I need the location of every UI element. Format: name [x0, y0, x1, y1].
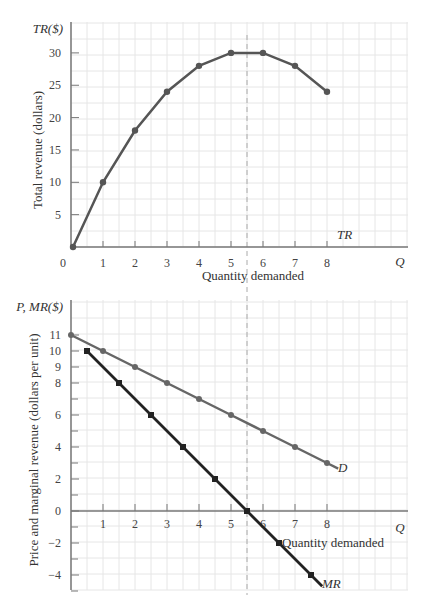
mr-point [244, 508, 250, 514]
tr-point [196, 63, 202, 69]
bottom-x-tick-label: 5 [228, 517, 234, 531]
top-y-tick-label: 10 [49, 175, 61, 189]
demand-point [68, 332, 74, 338]
demand-point [228, 412, 234, 418]
top-y-symbol: TR($) [33, 21, 63, 36]
tr-point [100, 179, 106, 185]
bottom-y-tick-label: 8 [55, 376, 61, 390]
bottom-x-symbol: Q [395, 520, 405, 535]
top-y-title: Total revenue (dollars) [30, 91, 45, 209]
top-x-tick-label: 1 [100, 256, 106, 270]
mr-point [180, 444, 186, 450]
demand-point [292, 444, 298, 450]
tr-point [324, 89, 330, 95]
bottom-y-tick-label: 9 [55, 360, 61, 374]
bottom-x-tick-label: 4 [196, 517, 202, 531]
tr-point [292, 63, 298, 69]
mr-point [84, 348, 90, 354]
demand-point [196, 396, 202, 402]
top-chart-grid [71, 22, 408, 247]
bottom-x-title: Quantity demanded [282, 535, 385, 550]
tr-curve-label: TR [337, 227, 352, 242]
top-x-tick-label: 8 [324, 256, 330, 270]
revenue-charts: 01234567851015202530123456781110986420−2… [0, 0, 423, 605]
tr-point [70, 244, 76, 250]
mr-line [87, 351, 322, 586]
top-x-title: Quantity demanded [202, 268, 305, 283]
tick-labels: 01234567851015202530123456781110986420−2… [48, 46, 330, 582]
mr-point [212, 476, 218, 482]
top-x-tick-label: 3 [164, 256, 170, 270]
tr-point [164, 89, 170, 95]
demand-point [260, 428, 266, 434]
top-y-tick-label: 5 [55, 208, 61, 222]
bottom-x-tick-label: 7 [292, 517, 298, 531]
mr-point [148, 412, 154, 418]
d-curve-label: D [337, 460, 348, 475]
tr-point [132, 127, 138, 133]
top-x-tick-label: 0 [60, 256, 66, 270]
bottom-x-tick-label: 1 [100, 517, 106, 531]
demand-line [71, 335, 338, 469]
top-y-tick-label: 15 [49, 143, 61, 157]
bottom-y-title: Price and marginal revenue (dollars per … [26, 334, 41, 567]
demand-point [324, 460, 330, 466]
top-x-symbol: Q [395, 254, 405, 269]
demand-point [132, 364, 138, 370]
bottom-y-tick-label: 2 [55, 472, 61, 486]
mr-point [308, 572, 314, 578]
mr-curve-label: MR [321, 576, 341, 591]
bottom-x-tick-label: 2 [132, 517, 138, 531]
bottom-y-tick-label: 6 [55, 408, 61, 422]
demand-point [164, 380, 170, 386]
bottom-y-tick-label: −4 [48, 568, 61, 582]
bottom-x-tick-label: 3 [164, 517, 170, 531]
top-x-tick-label: 2 [132, 256, 138, 270]
top-y-tick-label: 30 [49, 46, 61, 60]
top-y-tick-label: 20 [49, 111, 61, 125]
bottom-y-tick-label: 0 [55, 504, 61, 518]
bottom-x-tick-label: 8 [324, 517, 330, 531]
bottom-y-tick-label: 4 [55, 440, 61, 454]
bottom-y-symbol: P, MR($) [15, 299, 63, 314]
axes [71, 22, 408, 591]
bottom-y-tick-label: −2 [48, 536, 61, 550]
top-y-tick-label: 25 [49, 78, 61, 92]
tr-line [73, 53, 327, 247]
tr-point [260, 50, 266, 56]
bottom-y-tick-label: 10 [49, 344, 61, 358]
tr-point [228, 50, 234, 56]
mr-point [116, 380, 122, 386]
demand-point [100, 348, 106, 354]
bottom-y-tick-label: 11 [49, 328, 61, 342]
